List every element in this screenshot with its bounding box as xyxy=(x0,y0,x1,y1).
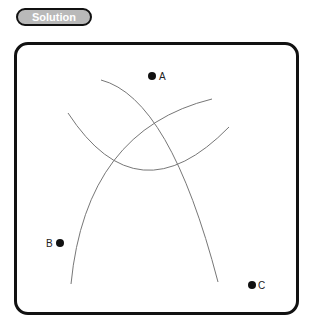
point-b: B xyxy=(46,238,64,249)
construction-diagram: A B C xyxy=(0,0,309,324)
svg-text:C: C xyxy=(258,280,265,291)
arc-from-a xyxy=(101,80,218,282)
arc-from-b xyxy=(71,99,212,284)
point-c: C xyxy=(248,280,265,291)
point-a: A xyxy=(148,71,166,82)
arc-from-c xyxy=(68,113,229,170)
svg-text:A: A xyxy=(159,71,166,82)
svg-text:B: B xyxy=(46,238,53,249)
